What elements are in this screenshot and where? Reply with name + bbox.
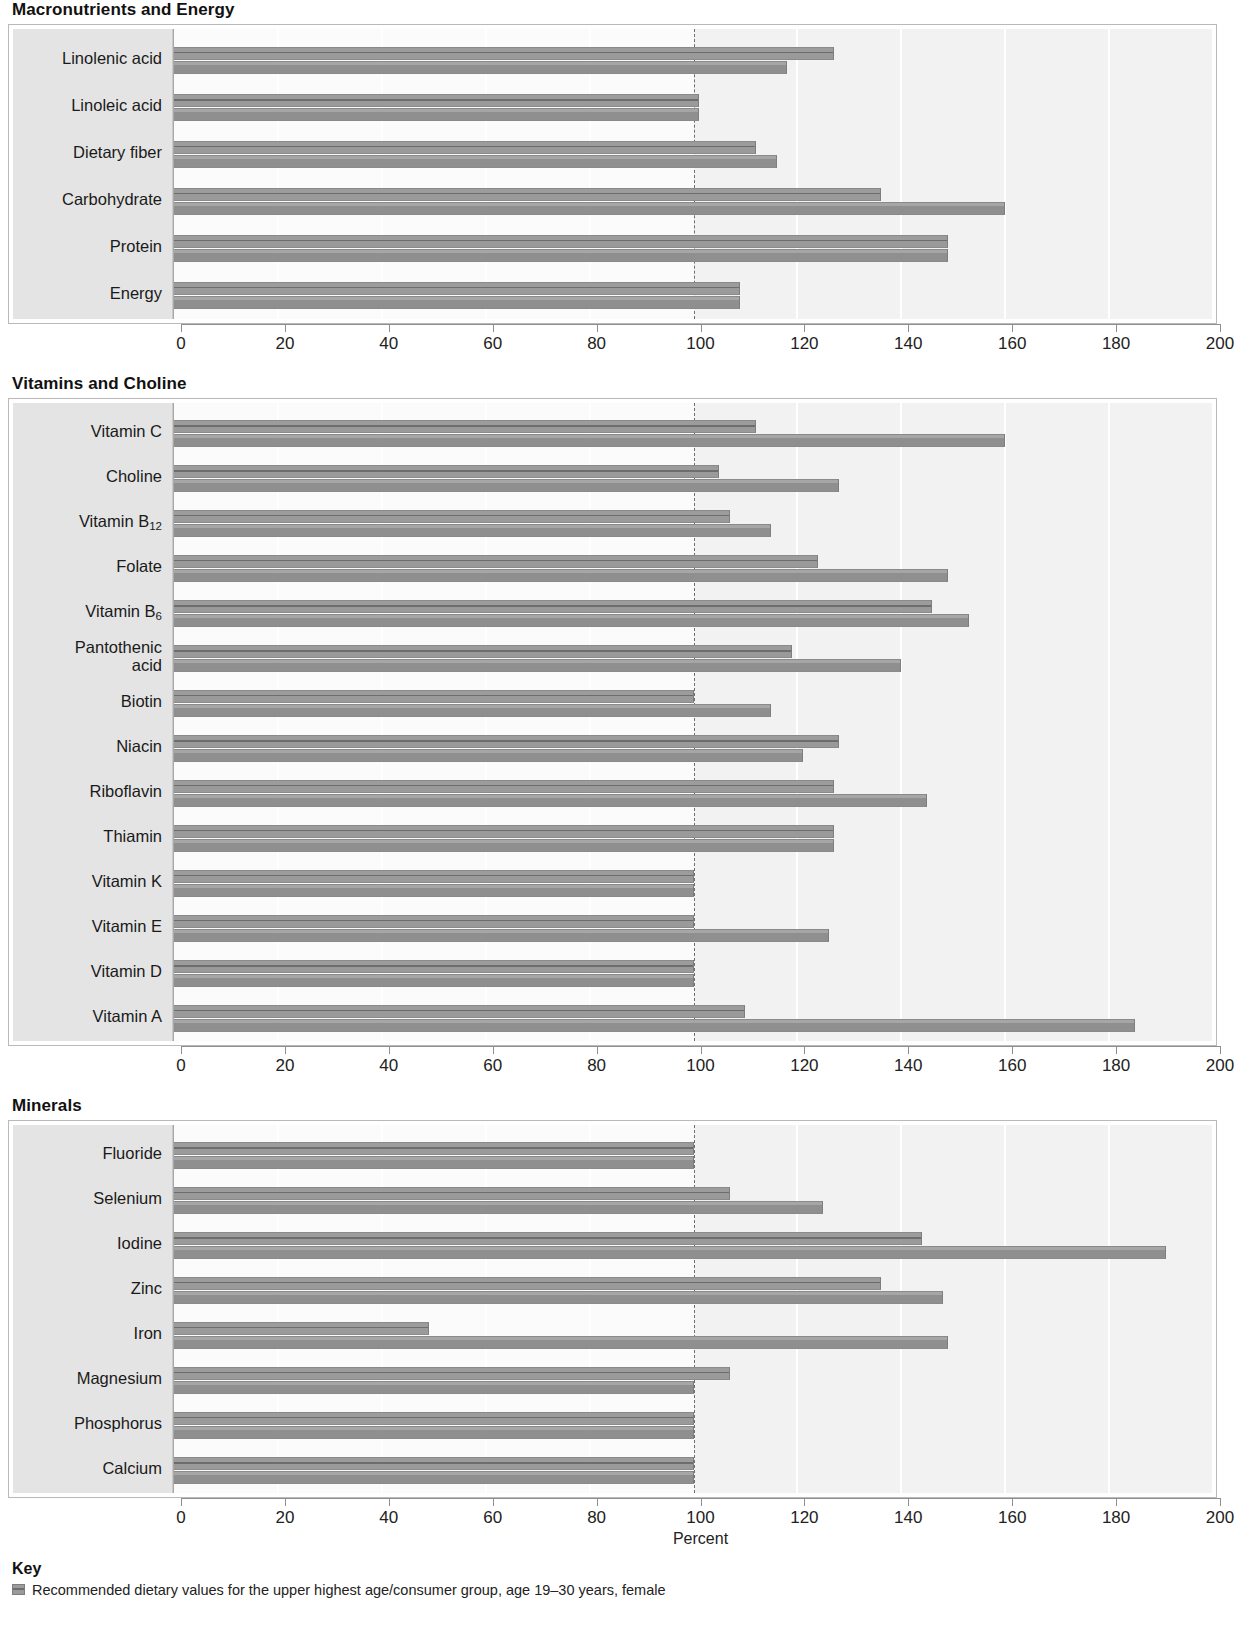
bar xyxy=(174,794,927,807)
category-label: Energy xyxy=(110,284,162,302)
axis-tick xyxy=(285,1046,286,1054)
bar xyxy=(174,1471,694,1484)
label-gutter-macronutrients: Linolenic acidLinoleic acidDietary fiber… xyxy=(13,29,173,319)
axis-tick-label: 140 xyxy=(894,334,922,354)
category-label: Niacin xyxy=(116,737,162,755)
category-label: Magnesium xyxy=(77,1369,162,1387)
panel-minerals: FluorideSeleniumIodineZincIronMagnesiumP… xyxy=(8,1120,1217,1498)
axis-tick-label: 20 xyxy=(275,1508,294,1528)
axis-tick-label: 200 xyxy=(1206,1056,1234,1076)
bar-rows xyxy=(174,403,1212,1041)
axis-tick xyxy=(389,1046,390,1054)
bar xyxy=(174,659,901,672)
axis-tick-label: 200 xyxy=(1206,1508,1234,1528)
bar xyxy=(174,1367,730,1380)
bar xyxy=(174,1412,694,1425)
axis-title: Percent xyxy=(673,1530,728,1548)
axis-tick xyxy=(1220,1498,1221,1506)
plot-macronutrients xyxy=(173,29,1212,319)
bar xyxy=(174,1232,922,1245)
bar xyxy=(174,704,771,717)
bar xyxy=(174,420,756,433)
bar xyxy=(174,1005,745,1018)
bar xyxy=(174,690,694,703)
bar xyxy=(174,1187,730,1200)
axis-tick xyxy=(1012,1498,1013,1506)
axis-tick-label: 0 xyxy=(176,334,185,354)
axis-tick-label: 20 xyxy=(275,334,294,354)
axis-tick xyxy=(1012,324,1013,332)
axis-tick xyxy=(1220,1046,1221,1054)
bar xyxy=(174,282,740,295)
axis-tick-label: 80 xyxy=(587,334,606,354)
category-label: Iodine xyxy=(117,1234,162,1252)
bar xyxy=(174,1426,694,1439)
key-heading: Key xyxy=(12,1560,1217,1578)
category-label: Linolenic acid xyxy=(62,49,162,67)
axis-tick xyxy=(1116,1046,1117,1054)
axis-tick xyxy=(908,1498,909,1506)
bar xyxy=(174,1457,694,1470)
axis-tick xyxy=(389,1498,390,1506)
section-title-vitamins: Vitamins and Choline xyxy=(12,374,1217,394)
axis-tick-label: 80 xyxy=(587,1508,606,1528)
axis-tick-label: 80 xyxy=(587,1056,606,1076)
section-title-macronutrients: Macronutrients and Energy xyxy=(12,0,1217,20)
axis-tick xyxy=(701,1498,702,1506)
bar xyxy=(174,915,694,928)
plot-minerals xyxy=(173,1125,1212,1493)
bar xyxy=(174,1142,694,1155)
category-label: Carbohydrate xyxy=(62,190,162,208)
key-swatch-icon xyxy=(12,1584,25,1595)
category-label: Calcium xyxy=(102,1459,162,1477)
bar xyxy=(174,825,834,838)
axis-tick-label: 140 xyxy=(894,1056,922,1076)
bar xyxy=(174,974,694,987)
axis-tick xyxy=(701,1046,702,1054)
bar xyxy=(174,1156,694,1169)
category-label: Zinc xyxy=(131,1279,162,1297)
axis-tick-label: 160 xyxy=(998,334,1026,354)
category-label: Selenium xyxy=(93,1189,162,1207)
bar xyxy=(174,249,948,262)
axis-tick-label: 60 xyxy=(483,334,502,354)
axis-tick-label: 40 xyxy=(379,1508,398,1528)
bar xyxy=(174,645,792,658)
bar xyxy=(174,1336,948,1349)
category-label: Folate xyxy=(116,557,162,575)
axis-tick xyxy=(1012,1046,1013,1054)
axis-tick-label: 0 xyxy=(176,1508,185,1528)
bar xyxy=(174,929,829,942)
axis-tick xyxy=(597,324,598,332)
bar xyxy=(174,749,803,762)
plot-vitamins xyxy=(173,403,1212,1041)
bar xyxy=(174,1291,943,1304)
category-label: Fluoride xyxy=(102,1144,162,1162)
axis-tick-label: 100 xyxy=(686,1508,714,1528)
category-label: Phosphorus xyxy=(74,1414,162,1432)
bar xyxy=(174,141,756,154)
bar xyxy=(174,735,839,748)
bar xyxy=(174,235,948,248)
axis-tick-label: 120 xyxy=(790,334,818,354)
axis-tick-label: 160 xyxy=(998,1508,1026,1528)
axis-tick xyxy=(285,324,286,332)
panel-macronutrients: Linolenic acidLinoleic acidDietary fiber… xyxy=(8,24,1217,324)
bar xyxy=(174,1322,429,1335)
axis-tick xyxy=(1116,1498,1117,1506)
axis-tick-label: 180 xyxy=(1102,1508,1130,1528)
x-axis-minerals: 020406080100120140160180200Percent xyxy=(8,1498,1217,1556)
axis-tick-label: 100 xyxy=(686,334,714,354)
bar xyxy=(174,1201,823,1214)
category-label: Vitamin B12 xyxy=(79,512,162,530)
axis-tick xyxy=(597,1046,598,1054)
bar xyxy=(174,555,818,568)
axis-tick xyxy=(1220,324,1221,332)
bar xyxy=(174,839,834,852)
bar xyxy=(174,155,777,168)
category-label: Vitamin A xyxy=(93,1007,162,1025)
bar-rows xyxy=(174,29,1212,319)
bar xyxy=(174,1246,1166,1259)
axis-tick-label: 160 xyxy=(998,1056,1026,1076)
axis-tick-label: 20 xyxy=(275,1056,294,1076)
